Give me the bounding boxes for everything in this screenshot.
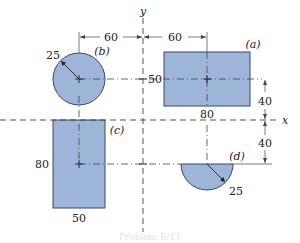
- shape-d-radius-label: 25: [229, 185, 243, 198]
- shape-c-height-label: 80: [35, 158, 49, 171]
- shape-d-label: (d): [229, 150, 245, 163]
- shape-c-width-label: 50: [72, 212, 86, 225]
- dimension-vertical: [263, 80, 267, 163]
- x-axis-label: x: [282, 114, 289, 127]
- dimension-right-60-label: 60: [168, 31, 182, 44]
- dimension-lower-40-label: 40: [258, 137, 272, 150]
- shape-d-semicircle: [181, 164, 233, 190]
- shape-b-label: (b): [94, 45, 110, 58]
- composite-area-diagram: 60 60 40 40 y x (b) 25 (a) 50 80 (c) 80 …: [0, 0, 300, 243]
- shape-a-width-label: 80: [200, 108, 214, 121]
- shape-a-height-label: 50: [148, 73, 162, 86]
- shape-a-label: (a): [245, 38, 260, 51]
- dimension-upper-40-label: 40: [258, 95, 272, 108]
- shape-c-label: (c): [110, 124, 125, 137]
- shape-b-radius-label: 25: [46, 49, 60, 62]
- dimension-left-60-label: 60: [104, 31, 118, 44]
- figure-caption: Problem B/11: [119, 232, 181, 242]
- y-axis-label: y: [139, 5, 147, 18]
